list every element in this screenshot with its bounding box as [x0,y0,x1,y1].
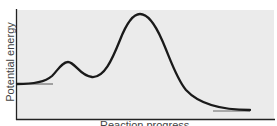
energy-diagram: Potential energy Reaction progress [0,0,277,126]
plot-background [17,10,274,119]
plot-svg [0,0,277,126]
y-axis-label: Potential energy [4,22,16,102]
x-axis-label: Reaction progress [100,120,180,126]
